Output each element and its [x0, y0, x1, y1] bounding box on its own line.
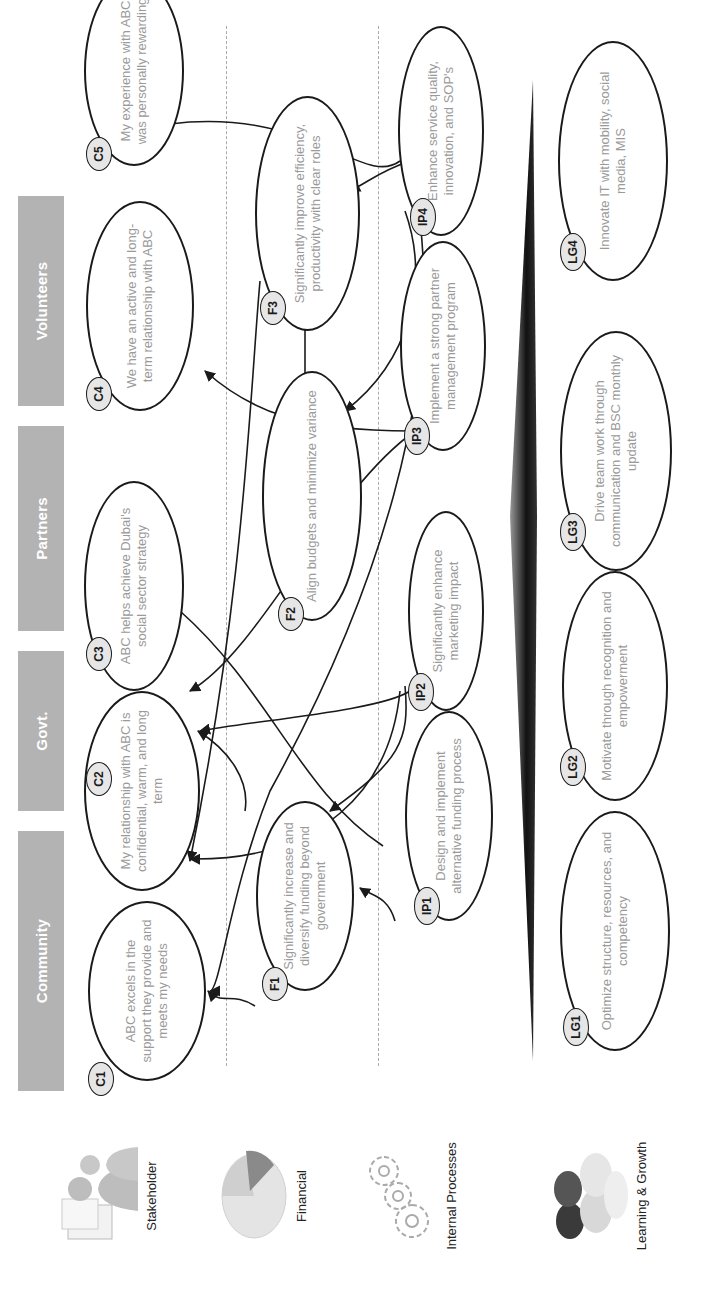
badge-label: C5	[92, 146, 106, 161]
objective-F1[interactable]: Significantly increase and diversify fun…	[256, 801, 354, 991]
badge-label: LG3	[566, 520, 580, 543]
objective-text: ABC helps achieve Dubai's social sector …	[118, 497, 150, 675]
badge-F3: F3	[260, 291, 286, 325]
badge-C5: C5	[86, 137, 112, 171]
badge-F2: F2	[278, 597, 304, 631]
perspective-label: Financial	[294, 1170, 309, 1222]
badge-label: C3	[92, 646, 106, 661]
badge-LG3: LG3	[560, 513, 586, 551]
badge-label: LG4	[566, 240, 580, 263]
objective-text: Design and implement alternative funding…	[433, 727, 465, 905]
badge-label: IP1	[420, 897, 434, 915]
objective-text: Innovate IT with mobility, social media,…	[597, 57, 629, 265]
badge-C1: C1	[88, 1062, 114, 1096]
perspective-label: Learning & Growth	[634, 1142, 649, 1250]
header-partners: Partners	[18, 426, 64, 631]
strategy-map: Community Govt. Partners Volunteers Stak…	[0, 0, 716, 1291]
objective-IP1[interactable]: Design and implement alternative funding…	[405, 711, 493, 921]
header-label: Govt.	[33, 711, 50, 750]
badge-LG4: LG4	[560, 233, 586, 271]
badge-label: C4	[92, 386, 106, 401]
objective-C1[interactable]: ABC excels in the support they provide a…	[88, 901, 206, 1081]
perspective-label: Stakeholder	[144, 1161, 159, 1230]
badge-IP2: IP2	[408, 673, 434, 711]
badge-label: LG1	[569, 1015, 583, 1038]
perspective-label: Internal Processes	[444, 1142, 459, 1250]
objective-IP4[interactable]: Enhance service quality, innovation, and…	[398, 26, 484, 236]
objective-text: Significantly enhance marketing impact	[430, 527, 462, 695]
divider-stakeholder-financial	[226, 26, 227, 1066]
badge-label: C2	[92, 771, 106, 786]
badge-IP1: IP1	[414, 887, 440, 925]
perspective-financial: Financial	[210, 1101, 309, 1291]
badge-label: F2	[284, 607, 298, 621]
badge-C4: C4	[86, 377, 112, 411]
header-community: Community	[18, 831, 64, 1091]
badge-F1: F1	[262, 967, 288, 1001]
people-icon	[60, 1141, 140, 1251]
badge-IP3: IP3	[404, 417, 430, 455]
badge-label: C1	[94, 1071, 108, 1086]
divider-financial-internal	[378, 26, 379, 1066]
badge-label: IP2	[414, 683, 428, 701]
badge-label: IP3	[410, 427, 424, 445]
objective-text: Motivate through recognition and empower…	[599, 587, 631, 785]
badge-C2: C2	[86, 762, 112, 796]
objective-text: Drive team work through communication an…	[592, 347, 640, 555]
puzzle-pieces-icon	[540, 1141, 630, 1251]
badge-label: LG2	[566, 755, 580, 778]
objective-F2[interactable]: Align budgets and minimize variance	[262, 371, 362, 621]
perspective-internal: Internal Processes	[360, 1101, 459, 1291]
perspective-learning: Learning & Growth	[540, 1101, 649, 1291]
objective-text: Optimize structure, resources, and compe…	[599, 827, 631, 1035]
pie-chart-icon	[210, 1141, 290, 1251]
badge-label: IP4	[416, 208, 430, 226]
objective-text: My experience with ABC was personally re…	[118, 0, 150, 150]
objective-text: Significantly increase and diversify fun…	[281, 817, 329, 975]
badge-label: F1	[268, 977, 282, 991]
perspective-stakeholder: Stakeholder	[60, 1101, 159, 1291]
objective-text: Significantly improve efficiency, produc…	[292, 112, 324, 315]
objective-text: Align budgets and minimize variance	[304, 390, 320, 602]
header-label: Volunteers	[33, 262, 50, 340]
objective-text: Enhance service quality, innovation, and…	[425, 42, 457, 220]
objective-text: We have an active and long-term relation…	[124, 217, 156, 395]
badge-IP4: IP4	[410, 198, 436, 236]
badge-C3: C3	[86, 637, 112, 671]
gears-icon	[360, 1141, 440, 1251]
objective-text: Implement a strong partner management pr…	[427, 257, 459, 435]
header-label: Community	[33, 919, 50, 1003]
header-volunteers: Volunteers	[18, 196, 64, 406]
objective-text: My relationship with ABC is confidential…	[118, 707, 166, 875]
badge-LG1: LG1	[563, 1008, 589, 1046]
header-label: Partners	[33, 497, 50, 559]
link-F1-C1	[208, 991, 255, 1006]
badge-LG2: LG2	[560, 748, 586, 786]
link-IP2-F1	[330, 686, 406, 811]
objective-text: ABC excels in the support they provide a…	[123, 917, 171, 1065]
badge-label: F3	[266, 301, 280, 315]
link-F3-C2	[190, 281, 260, 861]
header-govt: Govt.	[18, 651, 64, 811]
link-F1-C3	[198, 731, 246, 811]
